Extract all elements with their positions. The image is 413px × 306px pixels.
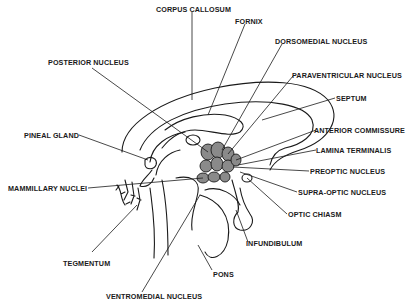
- label-tegmentum: TEGMENTUM: [63, 259, 110, 268]
- label-pineal-gland: PINEAL GLAND: [24, 131, 79, 140]
- label-corpus-callosum: CORPUS CALLOSUM: [156, 5, 231, 14]
- label-mammillary-nuclei: MAMMILLARY NUCLEI: [8, 184, 87, 193]
- label-dorsomedial-nucleus: DORSOMEDIAL NUCLEUS: [275, 37, 367, 46]
- pons-outline: [200, 195, 229, 257]
- label-ventromedial-nucleus: VENTROMEDIAL NUCLEUS: [106, 292, 202, 301]
- label-supra-optic-nucleus: SUPRA-OPTIC NUCLEUS: [298, 188, 386, 197]
- label-posterior-nucleus: POSTERIOR NUCLEUS: [48, 58, 129, 67]
- label-paraventricular-nucleus: PARAVENTRICULAR NUCLEUS: [292, 71, 402, 80]
- label-preoptic-nucleus: PREOPTIC NUCLEUS: [310, 167, 385, 176]
- fornix-outline: [162, 114, 243, 148]
- label-optic-chiasm: OPTIC CHIASM: [288, 210, 342, 219]
- label-anterior-commissure: ANTERIOR COMMISSURE: [314, 126, 405, 135]
- label-fornix: FORNIX: [235, 17, 263, 26]
- label-septum: SEPTUM: [336, 94, 367, 103]
- label-infundibulum: INFUNDIBULUM: [246, 239, 302, 248]
- infundibulum-outline: [232, 180, 252, 230]
- label-lamina-terminalis: LAMINA TERMINALIS: [316, 146, 391, 155]
- label-pons: PONS: [213, 270, 234, 279]
